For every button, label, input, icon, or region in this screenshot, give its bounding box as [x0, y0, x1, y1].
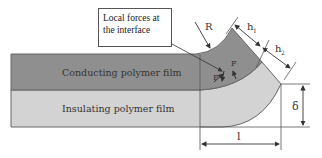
h1-subscript: 1: [253, 27, 257, 34]
length-label: l: [237, 130, 241, 143]
callout-line-1: Local forces at: [103, 12, 167, 24]
bilayer-bending-diagram: δ l h 1 h 2 R F F Conducting polymer fil…: [0, 0, 322, 158]
force-label-1: F: [213, 73, 219, 82]
deflection-label: δ: [292, 100, 299, 113]
force-label-2: F: [231, 59, 237, 68]
callout-line-2: the interface: [103, 24, 167, 36]
insulating-film-label: Insulating polymer film: [62, 103, 174, 114]
h2-subscript: 2: [281, 49, 285, 56]
callout-local-forces: Local forces at the interface: [98, 8, 172, 47]
radius-label: R: [205, 21, 213, 32]
conducting-film-label: Conducting polymer film: [62, 67, 181, 78]
